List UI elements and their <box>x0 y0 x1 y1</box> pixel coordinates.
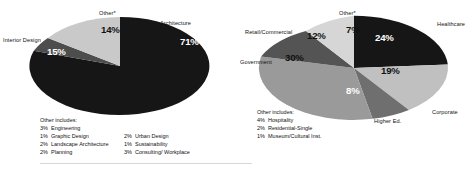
footnote-label: Graphic Design <box>51 133 89 139</box>
pie-chart-firm-discipline: 71% 15% 14% Architecture Interior Design… <box>0 0 238 169</box>
pct-retail-commercial: 12% <box>307 31 326 41</box>
slice-healthcare <box>354 16 448 68</box>
footnote-label: Urban Design <box>135 133 169 139</box>
pct-higher-ed: 8% <box>346 86 359 96</box>
footnote-pct: 2% <box>124 132 135 140</box>
footnote-pct: 2% <box>257 124 268 132</box>
footnote-label: Planning <box>51 149 72 155</box>
footnote-left-item: 2%Planning <box>40 148 108 156</box>
footnote-pct: 1% <box>257 132 268 140</box>
footnote-label: Landscape Architecture <box>51 141 108 147</box>
label-healthcare: Healthcare <box>437 22 465 28</box>
footnote-left-title: Other includes: <box>40 116 108 124</box>
footnote-left-item: 2%Urban Design <box>124 132 190 140</box>
footnote-right-item: 4%Hospitality <box>257 116 322 124</box>
label-other: Other* <box>99 11 116 17</box>
pct-government: 30% <box>285 53 304 63</box>
footnote-pct: 4% <box>257 116 268 124</box>
footnote-label: Museum/Cultural Inst. <box>268 133 322 139</box>
footnote-label: Consulting/ Workplace <box>135 149 190 155</box>
footnote-pct: 3% <box>40 124 51 132</box>
label-corporate: Corporate <box>432 110 458 116</box>
two-pie-chart-figure: 71% 15% 14% Architecture Interior Design… <box>0 0 476 169</box>
footnote-left-item: 1%Sustainability <box>124 140 190 148</box>
label-other: Other* <box>339 11 356 17</box>
footnote-label: Hospitality <box>268 117 293 123</box>
footnote-pct: 3% <box>124 148 135 156</box>
footnote-pct: 2% <box>40 148 51 156</box>
pct-other: 7% <box>346 25 359 35</box>
footnote-label: Residential-Single <box>268 125 312 131</box>
label-architecture: Architecture <box>160 21 191 27</box>
label-higher-ed: Higher Ed. <box>374 119 401 125</box>
label-interior-design: Interior Design <box>3 38 41 44</box>
bottom-divider <box>40 163 252 164</box>
pct-interior-design: 15% <box>47 47 66 57</box>
footnote-pct: 1% <box>124 140 135 148</box>
pct-other: 14% <box>101 25 120 35</box>
footnote-left: Other includes: 3%Engineering 1%Graphic … <box>40 116 108 156</box>
footnote-right-item: 1%Museum/Cultural Inst. <box>257 132 322 140</box>
footnote-right-item: 2%Residential-Single <box>257 124 322 132</box>
pct-corporate: 19% <box>381 66 400 76</box>
footnote-left-item: 2%Landscape Architecture <box>40 140 108 148</box>
footnote-right-title: Other includes: <box>257 108 322 116</box>
label-government: Government <box>240 60 272 66</box>
footnote-pct: 1% <box>40 132 51 140</box>
footnote-left-item: 1%Graphic Design <box>40 132 108 140</box>
footnote-left-item: 3%Consulting/ Workplace <box>124 148 190 156</box>
pct-healthcare: 24% <box>375 33 394 43</box>
footnote-left-item: 3%Engineering <box>40 124 108 132</box>
pie-left-graphic <box>28 16 212 116</box>
pct-architecture: 71% <box>180 37 199 47</box>
footnote-pct: 2% <box>40 140 51 148</box>
footnote-left-col2: 2%Urban Design 1%Sustainability 3%Consul… <box>124 132 190 156</box>
footnote-right: Other includes: 4%Hospitality 2%Resident… <box>257 108 322 140</box>
footnote-label: Engineering <box>51 125 80 131</box>
pie-chart-project-sector: 24% 19% 8% 30% 12% 7% Healthcare Corpora… <box>238 0 476 169</box>
footnote-label: Sustainability <box>135 141 167 147</box>
label-retail-commercial: Retail/Commercial <box>245 30 292 36</box>
